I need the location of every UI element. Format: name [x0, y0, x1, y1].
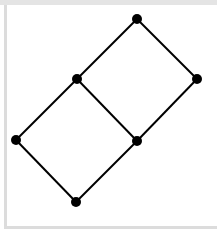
node-top — [132, 14, 142, 24]
edge-upper-left-middle-right — [77, 79, 137, 141]
node-bottom — [71, 197, 81, 207]
edge-middle-right-bottom — [76, 141, 137, 202]
node-right — [192, 74, 202, 84]
edge-top-upper-left — [77, 19, 137, 79]
node-middle-right — [132, 136, 142, 146]
diagram-edges — [16, 19, 197, 202]
edge-right-middle-right — [137, 79, 197, 141]
node-upper-left — [72, 74, 82, 84]
edge-upper-left-left — [16, 79, 77, 140]
node-left — [11, 135, 21, 145]
hasse-diagram — [0, 0, 217, 230]
edge-left-bottom — [16, 140, 76, 202]
edge-top-right — [137, 19, 197, 79]
